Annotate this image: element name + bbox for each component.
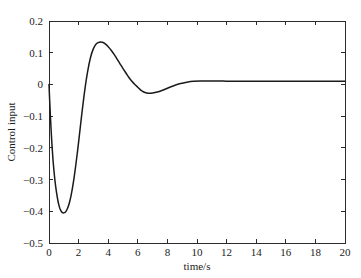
control-input-line-chart: 02468101214161820 −0.5−0.4−0.3−0.2−0.100…	[0, 0, 361, 278]
x-tick-label: 16	[280, 246, 292, 258]
figure-container: 02468101214161820 −0.5−0.4−0.3−0.2−0.100…	[0, 0, 361, 278]
x-tick-label: 12	[221, 246, 232, 258]
y-tick-label: 0	[38, 78, 44, 90]
y-tick-labels: −0.5−0.4−0.3−0.2−0.100.10.2	[23, 15, 43, 249]
control-input-curve	[49, 42, 345, 213]
y-tick-label: −0.4	[23, 205, 43, 217]
y-tick-label: 0.2	[29, 15, 43, 27]
x-tick-label: 4	[105, 246, 111, 258]
y-tick-label: −0.5	[23, 237, 43, 249]
y-tick-label: −0.3	[23, 174, 43, 186]
x-tick-label: 18	[310, 246, 322, 258]
y-tick-label: −0.2	[23, 142, 43, 154]
x-tick-label: 10	[192, 246, 204, 258]
x-tick-label: 20	[340, 246, 352, 258]
x-tick-label: 14	[251, 246, 263, 258]
y-tick-label: 0.1	[29, 47, 43, 59]
x-axis-title: time/s	[184, 260, 211, 272]
axes-group	[49, 21, 345, 243]
plot-frame	[49, 21, 345, 243]
x-tick-labels: 02468101214161820	[46, 246, 351, 258]
ticks-group	[49, 21, 345, 243]
x-tick-label: 8	[165, 246, 171, 258]
x-tick-label: 0	[46, 246, 52, 258]
y-tick-label: −0.1	[23, 110, 43, 122]
x-tick-label: 2	[76, 246, 82, 258]
y-axis-title: Control input	[5, 103, 17, 162]
x-tick-label: 6	[135, 246, 141, 258]
